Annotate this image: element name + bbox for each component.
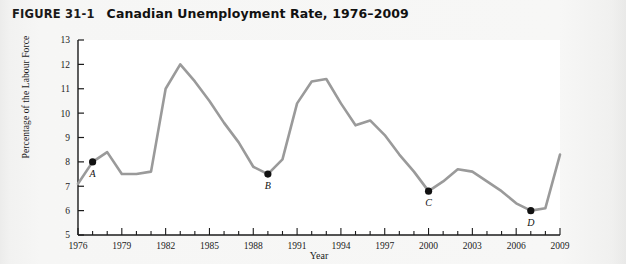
figure-header: FIGURE 31-1 Canadian Unemployment Rate, …	[12, 6, 409, 21]
data-point-marker-a	[89, 158, 96, 165]
data-point-marker-d	[527, 207, 534, 214]
y-axis-tick-label: 7	[65, 182, 70, 192]
x-axis-tick-label: 1976	[69, 241, 88, 251]
x-axis-tick-label: 1991	[288, 241, 307, 251]
x-axis-tick-label: 2009	[551, 241, 570, 251]
x-axis-tick-label: 1997	[375, 241, 394, 251]
y-axis-tick-label: 10	[61, 109, 71, 119]
y-axis-tick-label: 9	[65, 133, 70, 143]
data-point-label-c: C	[425, 197, 432, 208]
data-point-label-b: B	[265, 180, 271, 191]
chart-container: Percentage of the Labour Force Year 5678…	[0, 32, 626, 264]
y-axis-tick-label: 13	[61, 35, 71, 45]
data-point-marker-c	[425, 188, 432, 195]
x-axis-tick-label: 1988	[244, 241, 263, 251]
x-axis-tick-label: 2003	[463, 241, 482, 251]
x-axis-tick-label: 1982	[156, 241, 175, 251]
data-point-label-d: D	[526, 217, 535, 228]
unemployment-rate-line-chart: 5678910111213197619791982198519881991199…	[0, 32, 626, 264]
x-axis-tick-label: 2006	[507, 241, 526, 251]
unemployment-rate-series	[78, 64, 560, 210]
figure-title: Canadian Unemployment Rate, 1976–2009	[107, 6, 409, 21]
x-axis-tick-label: 1979	[112, 241, 131, 251]
x-axis-tick-label: 2000	[419, 241, 438, 251]
y-axis-tick-label: 5	[65, 230, 70, 240]
x-axis-tick-label: 1994	[331, 241, 350, 251]
data-point-marker-b	[264, 170, 271, 177]
data-point-label-a: A	[89, 168, 97, 179]
y-axis-tick-label: 8	[65, 157, 70, 167]
y-axis-tick-label: 12	[61, 60, 71, 70]
y-axis-tick-label: 11	[61, 84, 70, 94]
y-axis-tick-label: 6	[65, 206, 70, 216]
x-axis-tick-label: 1985	[200, 241, 219, 251]
